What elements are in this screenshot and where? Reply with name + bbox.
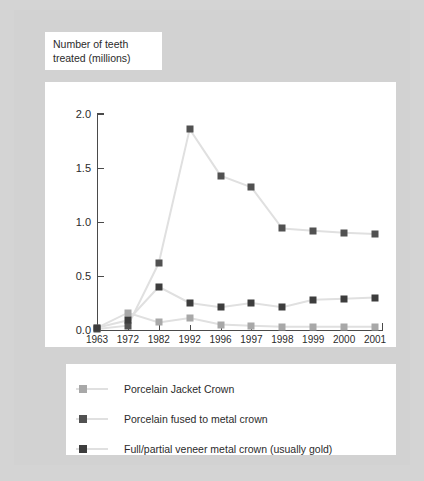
data-point-marker: [279, 323, 286, 330]
legend-label: Porcelain fused to metal crown: [124, 413, 268, 425]
legend-item-3[interactable]: Full/partial veneer metal crown (usually…: [74, 434, 332, 464]
legend-swatch: [74, 383, 110, 395]
legend-item-1[interactable]: Porcelain Jacket Crown: [74, 374, 234, 404]
data-point-marker: [341, 295, 348, 302]
legend-item-2[interactable]: Porcelain fused to metal crown: [74, 404, 268, 434]
data-point-marker: [186, 300, 193, 307]
data-point-marker: [217, 172, 224, 179]
axis-title-box: Number of teeth treated (millions): [45, 32, 162, 70]
data-point-marker: [217, 321, 224, 328]
axis-title-line-1: Number of teeth: [53, 37, 162, 51]
legend-marker: [79, 445, 87, 453]
data-point-marker: [217, 304, 224, 311]
data-point-marker: [341, 323, 348, 330]
data-point-marker: [94, 324, 101, 331]
data-point-marker: [124, 317, 131, 324]
legend-swatch: [74, 413, 110, 425]
data-point-marker: [372, 230, 379, 237]
legend-marker: [79, 385, 87, 393]
data-point-marker: [155, 319, 162, 326]
legend-swatch: [74, 443, 110, 455]
data-point-marker: [310, 296, 317, 303]
figure-container: Number of teeth treated (millions) 0.00.…: [14, 10, 410, 465]
data-point-marker: [279, 225, 286, 232]
legend-marker: [79, 415, 87, 423]
legend-label: Full/partial veneer metal crown (usually…: [124, 443, 332, 455]
chart-legend: Porcelain Jacket CrownPorcelain fused to…: [66, 364, 396, 455]
data-point-marker: [248, 322, 255, 329]
data-point-marker: [310, 323, 317, 330]
data-point-marker: [186, 315, 193, 322]
data-point-marker: [155, 260, 162, 267]
data-point-marker: [279, 304, 286, 311]
data-point-marker: [248, 184, 255, 191]
data-point-marker: [124, 309, 131, 316]
data-point-marker: [310, 227, 317, 234]
data-point-marker: [341, 229, 348, 236]
data-point-marker: [155, 283, 162, 290]
data-point-marker: [372, 323, 379, 330]
plot-panel: 0.00.51.01.52.0 196319721982199219961997…: [45, 82, 396, 347]
data-point-marker: [372, 294, 379, 301]
axis-title-line-2: treated (millions): [53, 51, 162, 65]
data-point-marker: [186, 126, 193, 133]
legend-label: Porcelain Jacket Crown: [124, 383, 234, 395]
data-point-marker: [248, 300, 255, 307]
